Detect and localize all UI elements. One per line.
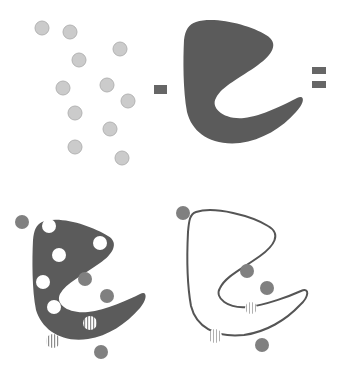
- outline-shape-panel: [176, 206, 307, 352]
- outer-molecule: [176, 206, 190, 220]
- white-hole: [36, 275, 50, 289]
- free-molecule: [35, 21, 49, 35]
- minus-operator: [154, 85, 167, 94]
- outer-molecule: [240, 264, 254, 278]
- free-molecule: [115, 151, 129, 165]
- outer-molecule: [15, 215, 29, 229]
- diagram-canvas: [0, 0, 345, 374]
- striped-molecule: [245, 302, 257, 314]
- striped-molecule: [83, 316, 97, 330]
- white-hole: [42, 219, 56, 233]
- shape-with-holes-panel: [15, 215, 146, 359]
- white-hole: [93, 236, 107, 250]
- striped-molecule: [208, 329, 222, 343]
- free-molecule: [72, 53, 86, 67]
- free-molecule: [103, 122, 117, 136]
- free-molecule: [113, 42, 127, 56]
- free-molecule: [68, 106, 82, 120]
- outer-molecule: [78, 272, 92, 286]
- outer-molecule: [100, 289, 114, 303]
- free-molecule: [68, 140, 82, 154]
- outer-molecule: [94, 345, 108, 359]
- equals-operator: [312, 67, 326, 88]
- striped-molecule: [46, 334, 60, 348]
- free-molecule: [100, 78, 114, 92]
- free-molecules-group: [35, 21, 135, 165]
- white-hole: [52, 248, 66, 262]
- free-molecule: [56, 81, 70, 95]
- solid-binding-shape: [183, 20, 302, 143]
- white-hole: [47, 300, 61, 314]
- outer-molecule: [255, 338, 269, 352]
- free-molecule: [63, 25, 77, 39]
- outer-molecule: [260, 281, 274, 295]
- free-molecule: [121, 94, 135, 108]
